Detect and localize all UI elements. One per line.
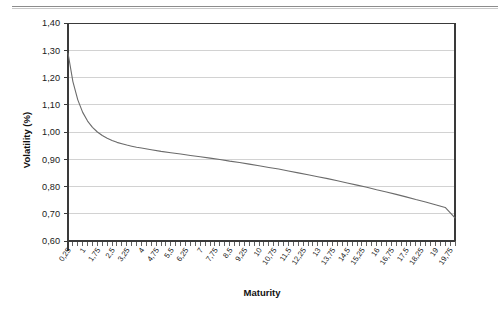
y-tick-label: 1,20 — [42, 73, 60, 83]
y-axis — [64, 23, 68, 251]
y-axis-tick-labels: 0,600,700,800,901,001,101,201,301,40 — [42, 18, 60, 246]
x-tick-label: 15,25 — [348, 246, 366, 267]
y-tick-label: 1,40 — [42, 18, 60, 28]
x-tick-label: 9,25 — [233, 246, 249, 263]
x-tick-label: 19 — [428, 246, 440, 258]
x-tick-label: 10 — [252, 246, 264, 258]
x-tick-label: 0,25 — [57, 246, 73, 263]
x-tick-label: 12,25 — [290, 246, 308, 267]
x-tick-label: 16,75 — [378, 246, 396, 267]
x-axis — [68, 241, 455, 246]
x-tick-label: 7,75 — [204, 246, 220, 263]
chart-figure: 0,600,700,800,901,001,101,201,301,40 0,2… — [0, 0, 498, 311]
y-tick-label: 1,30 — [42, 46, 60, 56]
x-tick-label: 19,75 — [437, 246, 455, 267]
y-tick-label: 0,70 — [42, 209, 60, 219]
x-tick-label: 4 — [137, 246, 147, 255]
y-tick-label: 0,60 — [42, 236, 60, 246]
y-tick-label: 1,10 — [42, 100, 60, 110]
x-tick-label: 13,75 — [319, 246, 337, 267]
page-top-rule — [12, 6, 498, 7]
x-tick-label: 1 — [78, 246, 88, 255]
x-tick-label: 10,75 — [260, 246, 278, 267]
x-tick-label: 3,25 — [116, 246, 132, 263]
y-tick-label: 0,80 — [42, 182, 60, 192]
x-tick-label: 4,75 — [145, 246, 161, 263]
y-tick-label: 0,90 — [42, 155, 60, 165]
y-tick-label: 1,00 — [42, 127, 60, 137]
x-tick-label: 13 — [310, 246, 322, 258]
volatility-term-structure-chart: 0,600,700,800,901,001,101,201,301,40 0,2… — [0, 0, 498, 311]
x-tick-label: 6,25 — [175, 246, 191, 263]
page-top-rule-secondary — [12, 8, 498, 9]
x-tick-label: 18,25 — [407, 246, 425, 267]
x-tick-label: 1,75 — [86, 246, 102, 263]
x-tick-label: 16 — [369, 246, 381, 258]
y-axis-title: Volatility (%) — [21, 112, 32, 168]
x-axis-tick-labels: 0,2511,752,53,2544,755,56,2577,758,59,25… — [57, 246, 455, 267]
x-axis-title: Maturity — [244, 287, 282, 298]
x-tick-label: 7 — [195, 246, 205, 255]
